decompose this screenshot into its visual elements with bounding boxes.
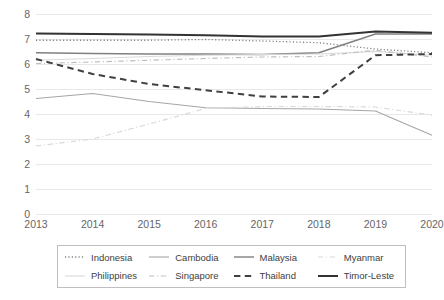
y-axis-tick-label: 4 (0, 109, 30, 120)
legend-label: Myanmar (344, 252, 384, 263)
x-axis: 20132014201520162017201820192020 (36, 218, 432, 234)
x-axis-tick-label: 2017 (251, 218, 274, 231)
chart-legend: IndonesiaCambodiaMalaysiaMyanmarPhilippi… (57, 245, 406, 288)
y-axis-tick-label: 8 (0, 9, 30, 20)
y-axis: 012345678 (0, 14, 30, 214)
legend-swatch-icon (317, 271, 339, 281)
legend-item-thailand[interactable]: Thailand (233, 270, 317, 281)
legend-label: Thailand (260, 270, 296, 281)
series-line-singapore (36, 50, 432, 63)
legend-swatch-icon (148, 252, 170, 262)
legend-item-myanmar[interactable]: Myanmar (317, 252, 401, 263)
legend-swatch-icon (317, 252, 339, 262)
x-axis-tick-label: 2016 (194, 218, 217, 231)
series-line-myanmar (36, 107, 432, 147)
legend-swatch-icon (148, 271, 170, 281)
y-axis-tick-label: 7 (0, 34, 30, 45)
y-axis-tick-label: 5 (0, 84, 30, 95)
y-axis-tick-label: 1 (0, 184, 30, 195)
legend-item-philippines[interactable]: Philippines (64, 270, 148, 281)
y-axis-tick-label: 6 (0, 59, 30, 70)
gridlines (36, 14, 432, 214)
x-axis-tick-label: 2013 (24, 218, 47, 231)
legend-swatch-icon (233, 271, 255, 281)
series-line-thailand (36, 54, 432, 97)
y-axis-tick-label: 3 (0, 134, 30, 145)
legend-item-indonesia[interactable]: Indonesia (64, 252, 148, 263)
legend-label: Singapore (175, 270, 218, 281)
legend-label: Cambodia (175, 252, 218, 263)
legend-swatch-icon (64, 252, 86, 262)
y-axis-tick-label: 2 (0, 159, 30, 170)
x-axis-tick-label: 2020 (420, 218, 443, 231)
legend-label: Malaysia (260, 252, 298, 263)
x-axis-tick-label: 2018 (307, 218, 330, 231)
plot-area (36, 14, 432, 214)
series-line-philippines (36, 52, 432, 61)
legend-label: Timor-Leste (344, 270, 394, 281)
legend-swatch-icon (233, 252, 255, 262)
legend-label: Philippines (91, 270, 137, 281)
legend-item-timor-leste[interactable]: Timor-Leste (317, 270, 401, 281)
legend-label: Indonesia (91, 252, 132, 263)
x-axis-tick-label: 2014 (81, 218, 104, 231)
x-axis-tick-label: 2019 (364, 218, 387, 231)
legend-item-singapore[interactable]: Singapore (148, 270, 232, 281)
legend-item-malaysia[interactable]: Malaysia (233, 252, 317, 263)
chart-canvas (36, 14, 432, 214)
x-axis-tick-label: 2015 (137, 218, 160, 231)
series-line-indonesia (36, 40, 432, 53)
legend-item-cambodia[interactable]: Cambodia (148, 252, 232, 263)
legend-swatch-icon (64, 271, 86, 281)
series-line-timor-leste (36, 32, 432, 37)
